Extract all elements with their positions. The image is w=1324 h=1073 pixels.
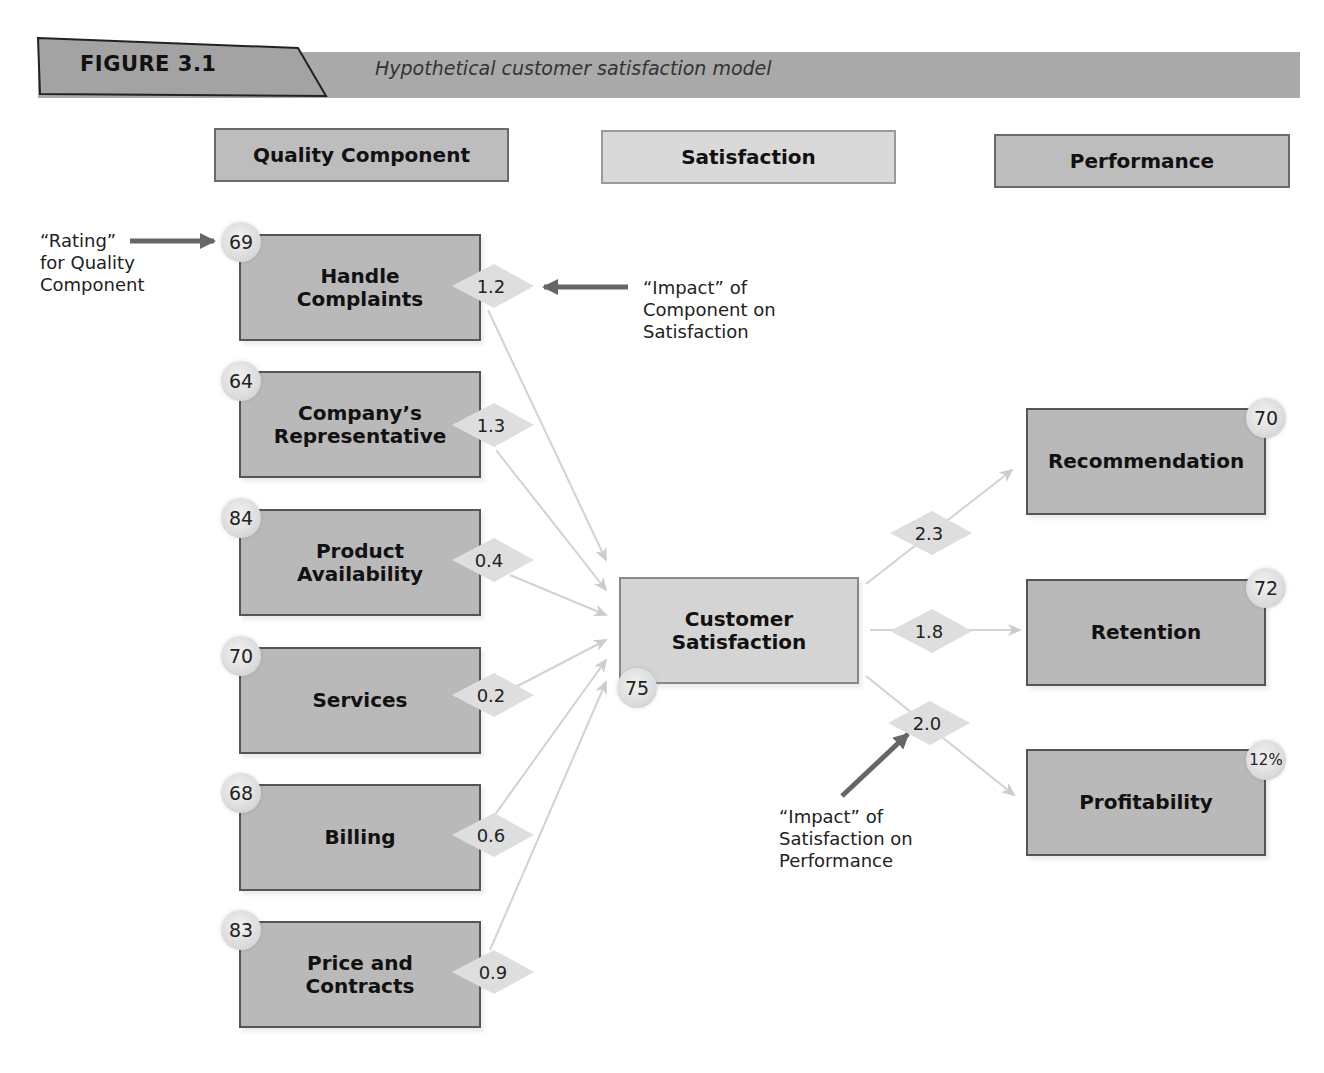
rating-badge: 84 [221,498,261,538]
impact-diamond: 0.2 [452,671,534,719]
rating-badge: 83 [221,910,261,950]
performance-value-badge: 72 [1246,568,1286,608]
impact-diamond-retention: 1.8 [890,607,972,655]
rating-badge: 64 [221,361,261,401]
impact-diamond: 0.4 [452,536,534,584]
impact-diamond: 0.9 [452,948,534,996]
connector-lines [0,0,1324,1073]
performance-value-badge: 70 [1246,398,1286,438]
rating-badge: 69 [221,222,261,262]
rating-badge: 68 [221,773,261,813]
impact-diamond: 1.3 [452,401,534,449]
rating-badge: 70 [221,636,261,676]
satisfaction-rating-badge: 75 [617,668,657,708]
impact-diamond: 0.6 [452,811,534,859]
impact-diamond-recommendation: 2.3 [890,509,972,557]
performance-value-badge: 12% [1246,740,1286,780]
impact-diamond-profitability: 2.0 [888,699,970,747]
impact-diamond: 1.2 [452,262,534,310]
